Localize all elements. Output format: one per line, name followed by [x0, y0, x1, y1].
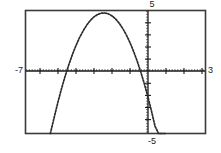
calculator-graph-screen: 5 -5 -7 3 — [0, 0, 221, 153]
plot-frame — [26, 11, 206, 134]
x-min-label: -7 — [2, 66, 23, 75]
y-max-label: 5 — [143, 0, 161, 9]
y-min-label: -5 — [143, 137, 161, 146]
plot-area — [0, 0, 221, 153]
x-max-label: 3 — [208, 66, 220, 75]
